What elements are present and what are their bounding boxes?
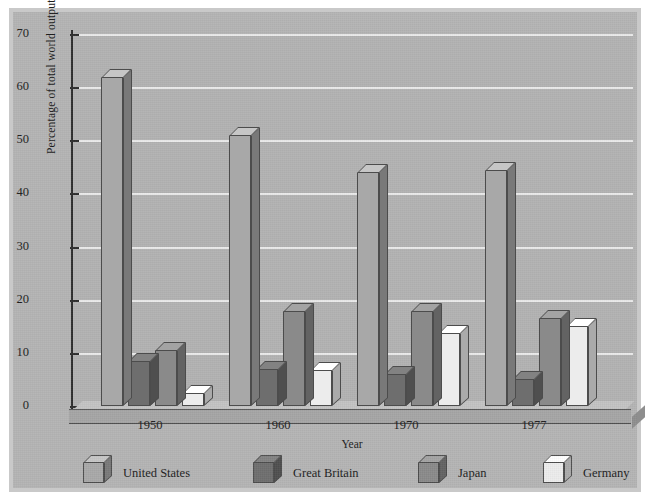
y-axis-tick [70,247,79,249]
bar-face [101,77,123,406]
legend-label: Japan [458,466,486,481]
legend-label: Great Britain [293,466,359,481]
legend-swatch [418,462,439,483]
bar-side [379,164,388,406]
y-axis-tick-label: 70 [0,27,29,40]
y-axis-tick-label: 40 [0,186,29,199]
legend-swatch [253,462,274,483]
bar-side [433,303,442,406]
legend-swatch-face [83,462,104,483]
x-axis-tick-label: 1960 [243,418,313,433]
y-axis-tick [70,193,79,195]
y-axis-tick-label: 50 [0,133,29,146]
bar-side [123,68,132,406]
chart-panel: 010203040506070 Percentage of total worl… [13,12,637,488]
legend-label: United States [123,466,190,481]
y-axis-tick [70,140,79,142]
bar-group [101,34,209,406]
y-axis-title: Percentage of total world output [45,0,57,154]
y-axis-tick [70,34,79,36]
y-axis-tick [70,353,79,355]
bar-united-states [101,77,123,406]
bar-side [177,342,186,406]
bar-side [507,161,516,406]
x-axis-tick-label: 1977 [499,418,569,433]
chart-legend: United StatesGreat BritainJapanGermany [43,452,633,492]
bar-side [150,353,159,406]
legend-swatch-face [543,462,564,483]
y-axis-tick-label: 60 [0,80,29,93]
legend-swatch-face [253,462,274,483]
bar-side [460,325,469,406]
bar-face [485,170,507,406]
y-axis-tick-label: 10 [0,346,29,359]
x-axis-tick-label: 1970 [371,418,441,433]
bar-united-states [229,135,251,406]
bar-united-states [357,172,379,406]
bar-face [229,135,251,406]
y-axis-tick-label: 0 [0,399,29,412]
chart-screenshot: 010203040506070 Percentage of total worl… [0,0,650,501]
bar-united-states [485,170,507,406]
legend-swatch [83,462,104,483]
bar-side [561,310,570,406]
legend-label: Germany [583,466,630,481]
x-axis-title: Year [71,438,633,450]
y-axis-tick-label: 20 [0,293,29,306]
bar-group [229,34,337,406]
bar-side [251,127,260,406]
y-axis-tick-label: 30 [0,240,29,253]
bar-face [357,172,379,406]
legend-swatch-face [418,462,439,483]
y-axis-tick [70,300,79,302]
bar-group [357,34,465,406]
y-axis-tick [70,87,79,89]
bar-group [485,34,593,406]
x-axis-tick-label: 1950 [115,418,185,433]
legend-swatch [543,462,564,483]
bar-side [588,318,597,406]
bar-side [305,303,314,406]
plot-area: 010203040506070 Percentage of total worl… [71,34,633,406]
